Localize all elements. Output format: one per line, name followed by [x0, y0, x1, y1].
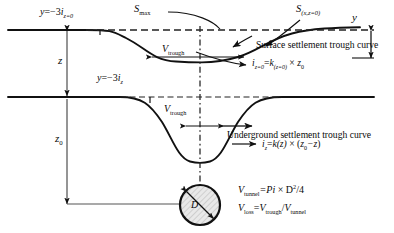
surface-inflection-label: y=−3iz=0	[40, 7, 73, 19]
diagram-canvas: y=−3iz=0 Smax S(x,z=0) y z Vtrough Surfa…	[0, 0, 394, 233]
v-trough-upper-label: Vtrough	[162, 44, 184, 56]
depth-z0-label: z0	[55, 133, 63, 147]
depth-z-label: z	[58, 55, 62, 66]
surface-formula-label: iz=0=k(z=0) × z0	[252, 58, 304, 71]
v-loss-formula-label: Vloss=Vtrough/Vtunnel	[238, 203, 306, 215]
underground-formula-label: iz=k(z) × (z0−z)	[262, 139, 320, 152]
s-xz0-label: S(x,z=0)	[296, 4, 320, 17]
s-max-leader	[168, 12, 220, 29]
tunnel-circle	[180, 185, 220, 225]
tunnel-diameter-label: D	[191, 200, 198, 210]
surface-curve-leader	[233, 36, 252, 47]
surface-curve-name-label: Surface settlement trough curve	[256, 40, 378, 50]
s-max-label: Smax	[134, 4, 150, 17]
v-tunnel-formula-label: Vtunnel=Pi × D2/4	[238, 184, 304, 198]
y-axis-label: y	[352, 12, 357, 23]
subsurface-inflection-label: y=−3iz	[97, 73, 123, 85]
v-trough-lower-label: Vtrough	[164, 104, 186, 116]
